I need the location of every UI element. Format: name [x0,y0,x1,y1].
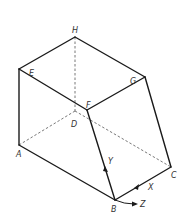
label-F: F [86,101,91,110]
hidden-edge-DA [19,111,75,145]
label-A: A [15,150,21,159]
edge-GC [145,77,171,167]
solid-diagram: H E G F D A C B Y X Z [0,0,186,224]
axis-label-z: Z [139,200,146,209]
label-E: E [29,69,35,78]
label-B: B [111,205,117,214]
edge-HG [75,37,145,77]
label-C: C [171,171,177,180]
edge-BC [115,167,171,200]
label-H: H [72,26,78,35]
z-axis-arrow-icon [115,200,134,204]
axis-label-y: Y [108,157,114,166]
edge-HE [19,37,75,69]
label-G: G [130,77,136,86]
edge-GF [87,77,145,110]
axis-label-x: X [147,183,154,192]
z-axis-arrowhead-icon [132,202,138,207]
label-D: D [71,120,77,129]
y-axis-arrow-icon [103,166,108,172]
